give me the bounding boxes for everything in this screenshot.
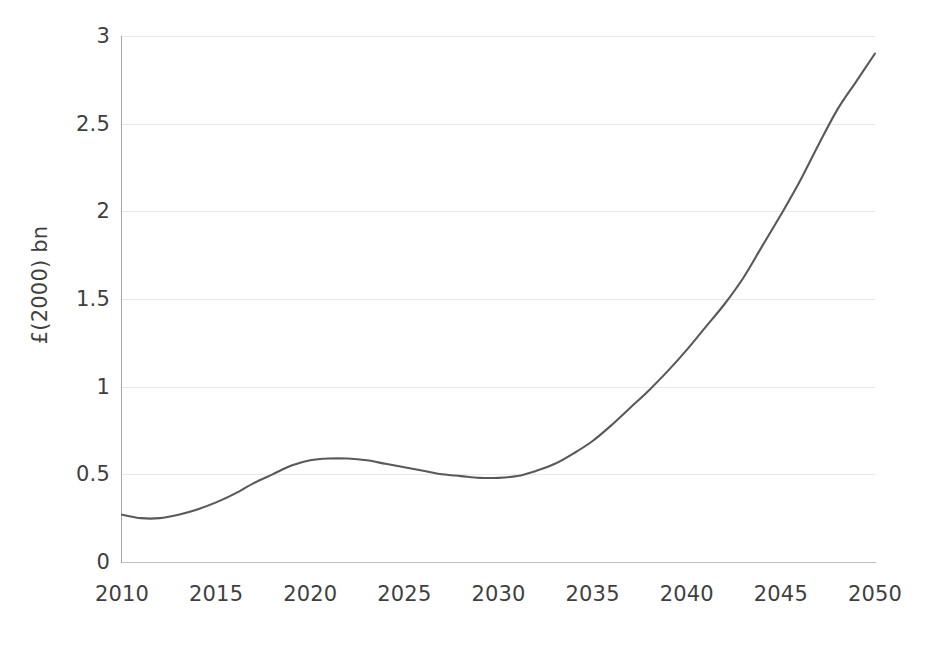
y-axis-tick-labels: 00.511.522.53 [0,0,122,646]
line-chart-svg [122,36,875,562]
y-tick-label-2.5: 2.5 [14,113,122,134]
y-tick-label-1: 1 [14,376,122,397]
y-tick-label-3: 3 [14,26,122,47]
x-axis-line [122,562,876,563]
x-tick-label-2050: 2050 [820,584,930,605]
series-line-cost [122,54,875,519]
y-tick-label-0.5: 0.5 [14,464,122,485]
y-tick-label-0: 0 [14,552,122,573]
chart-page: £(2000) bn 00.511.522.53 201020152020202… [0,0,941,646]
plot-area [122,36,875,562]
y-tick-label-1.5: 1.5 [14,289,122,310]
y-tick-label-2: 2 [14,201,122,222]
